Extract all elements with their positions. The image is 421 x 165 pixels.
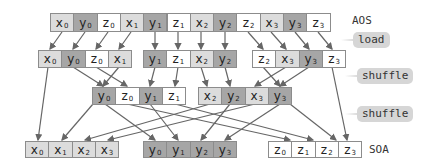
load-tag: load xyxy=(353,32,390,48)
cell-y3: y3 xyxy=(268,87,292,105)
cell-x2: x2 xyxy=(190,50,214,68)
cell-z0: z0 xyxy=(115,87,139,105)
cell-x0: x0 xyxy=(38,50,62,68)
cell-y3: y3 xyxy=(299,50,323,68)
cell-y2: y2 xyxy=(213,50,237,68)
cell-y0: y0 xyxy=(61,50,85,68)
cell-x1: x1 xyxy=(120,13,144,32)
cell-y3: y3 xyxy=(283,13,307,32)
cell-z2: z2 xyxy=(315,141,339,158)
cell-x3: x3 xyxy=(245,87,269,105)
cell-z2: z2 xyxy=(252,50,276,68)
cell-y1: y1 xyxy=(143,13,167,32)
cell-x1: x1 xyxy=(48,141,72,158)
cell-z0: z0 xyxy=(97,13,121,32)
cell-y2: y2 xyxy=(221,87,245,105)
cell-x1: x1 xyxy=(108,50,132,68)
cell-x3: x3 xyxy=(275,50,299,68)
cell-x0: x0 xyxy=(25,141,49,158)
cell-y3: y3 xyxy=(213,141,237,158)
cell-z3: z3 xyxy=(338,141,362,158)
cell-z0: z0 xyxy=(268,141,292,158)
cell-y2: y2 xyxy=(213,13,237,32)
cell-y2: y2 xyxy=(190,141,214,158)
cell-x2: x2 xyxy=(72,141,96,158)
aos-label: AOS xyxy=(352,14,372,27)
cell-y1: y1 xyxy=(143,50,167,68)
cell-x3: x3 xyxy=(95,141,119,158)
shuffle-tag-2: shuffle xyxy=(357,106,413,122)
cell-y0: y0 xyxy=(143,141,167,158)
cell-z3: z3 xyxy=(306,13,330,32)
cell-z1: z1 xyxy=(162,87,186,105)
cell-z1: z1 xyxy=(291,141,315,158)
cell-z1: z1 xyxy=(167,13,191,32)
cell-x2: x2 xyxy=(198,87,222,105)
cell-y1: y1 xyxy=(166,141,190,158)
cell-z2: z2 xyxy=(236,13,260,32)
cell-z1: z1 xyxy=(166,50,190,68)
arrows xyxy=(38,32,347,140)
soa-label: SOA xyxy=(369,143,389,156)
cell-y0: y0 xyxy=(92,87,116,105)
shuffle-tag-1: shuffle xyxy=(357,68,413,84)
cell-y0: y0 xyxy=(73,13,97,32)
cell-x0: x0 xyxy=(50,13,74,32)
cell-x3: x3 xyxy=(260,13,284,32)
cell-z3: z3 xyxy=(322,50,346,68)
cell-x2: x2 xyxy=(190,13,214,32)
cell-z0: z0 xyxy=(85,50,109,68)
cell-y1: y1 xyxy=(139,87,163,105)
